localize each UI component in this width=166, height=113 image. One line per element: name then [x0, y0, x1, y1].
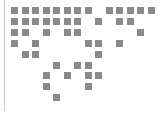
grid-square	[22, 18, 29, 25]
grid-square	[43, 7, 50, 14]
grid-square	[43, 83, 50, 90]
grid-square	[85, 40, 92, 47]
grid-square	[148, 7, 155, 14]
grid-square	[11, 18, 18, 25]
grid-square	[137, 29, 144, 36]
grid-square	[116, 40, 123, 47]
grid-square	[85, 62, 92, 69]
grid-square	[43, 72, 50, 79]
grid-square	[64, 29, 71, 36]
grid-square	[74, 29, 81, 36]
grid-square	[127, 7, 134, 14]
grid-square	[106, 7, 113, 14]
grid-square	[22, 51, 29, 58]
grid-square	[64, 7, 71, 14]
grid-square	[74, 62, 81, 69]
grid-square	[95, 51, 102, 58]
grid-square	[32, 40, 39, 47]
grid-square	[11, 7, 18, 14]
grid-square	[53, 18, 60, 25]
grid-square	[85, 72, 92, 79]
grid-square	[116, 18, 123, 25]
square-pattern-grid	[0, 0, 166, 113]
grid-square	[64, 72, 71, 79]
grid-square	[95, 72, 102, 79]
grid-square	[32, 18, 39, 25]
grid-square	[127, 18, 134, 25]
grid-square	[11, 40, 18, 47]
grid-square	[53, 7, 60, 14]
grid-square	[53, 94, 60, 101]
grid-square	[22, 7, 29, 14]
grid-square	[53, 62, 60, 69]
grid-square	[95, 18, 102, 25]
grid-square	[116, 7, 123, 14]
grid-square	[95, 40, 102, 47]
grid-square	[43, 29, 50, 36]
grid-square	[85, 83, 92, 90]
grid-square	[85, 7, 92, 14]
grid-square	[22, 29, 29, 36]
grid-square	[74, 7, 81, 14]
grid-square	[64, 18, 71, 25]
grid-square	[137, 7, 144, 14]
grid-square	[74, 18, 81, 25]
grid-square	[32, 51, 39, 58]
grid-square	[32, 7, 39, 14]
grid-square	[11, 29, 18, 36]
grid-square	[43, 18, 50, 25]
